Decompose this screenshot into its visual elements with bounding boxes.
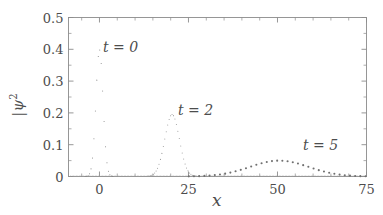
series-annotation-t0: t = 0: [103, 40, 138, 54]
series-1: [143, 114, 202, 177]
x-tick-label: 0: [95, 183, 103, 196]
figure-container: |ψ2 x t = 0 t = 2 t = 5 00.10.20.30.40.5…: [0, 0, 383, 215]
series-annotation-t2: t = 2: [178, 103, 213, 117]
x-tick-label: 75: [358, 183, 375, 196]
series-0: [85, 49, 114, 177]
y-tick-label: 0: [55, 170, 63, 183]
y-tick-label: 0.1: [43, 138, 64, 151]
y-tick-label: 0.4: [43, 43, 64, 56]
y-tick-label: 0.5: [43, 11, 64, 24]
data-series-group: [70, 49, 367, 177]
x-axis-label: x: [212, 192, 222, 209]
x-tick-label: 25: [180, 183, 197, 196]
y-axis-label: |ψ2: [9, 93, 26, 116]
y-tick-label: 0.2: [43, 106, 64, 119]
y-axis-label-wrapper: |ψ2: [8, 96, 26, 114]
y-tick-label: 0.3: [43, 75, 64, 88]
x-tick-label: 50: [269, 183, 286, 196]
series-annotation-t5: t = 5: [303, 138, 338, 152]
